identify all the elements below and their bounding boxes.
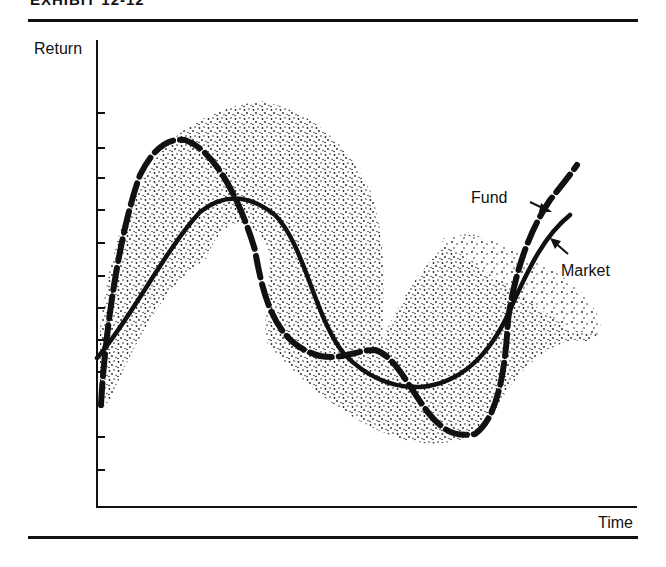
fund-label: Fund: [471, 189, 507, 207]
market-arrow: [550, 238, 568, 254]
y-axis-label: Return: [34, 40, 82, 58]
chart-canvas: [0, 0, 666, 567]
x-axis-label: Time: [598, 514, 633, 532]
y-axis: [97, 40, 105, 508]
bottom-rule: [28, 536, 638, 539]
market-label: Market: [561, 262, 610, 280]
